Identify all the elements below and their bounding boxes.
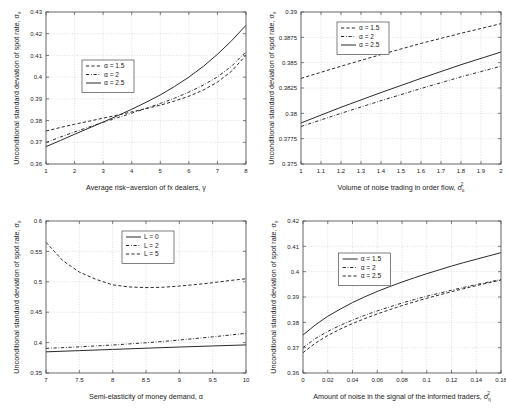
y-tick-label: 0.4 — [34, 340, 43, 346]
legend-label-1: α = 1.5 — [359, 24, 380, 31]
series-line-1 — [46, 55, 246, 131]
x-tick-label: 8 — [111, 377, 115, 383]
x-axis-label: Volume of noise trading in order flow, σ… — [338, 182, 465, 193]
y-tick-label: 0.3825 — [279, 85, 298, 91]
y-tick-label: 0.37 — [287, 345, 299, 351]
legend-label-2: α = 2 — [359, 33, 374, 40]
x-tick-label: 7 — [44, 377, 48, 383]
y-tick-label: 0.36 — [30, 161, 42, 167]
y-tick-label: 0.4 — [291, 269, 300, 275]
x-tick-label: 0.14 — [470, 377, 482, 383]
chart-panel-bottom-left: 77.588.599.5100.350.40.450.50.550.6Semi-… — [0, 209, 253, 418]
x-tick-label: 0.1 — [423, 377, 432, 383]
x-tick-label: 8 — [244, 168, 248, 174]
x-tick-label: 9.5 — [208, 377, 217, 383]
y-axis-label: Unconditional standard deviation of spot… — [267, 11, 277, 165]
legend-label-3: α = 2.5 — [359, 41, 380, 48]
legend-label-1: α = 1.5 — [104, 62, 125, 69]
x-tick-label: 8.5 — [142, 377, 151, 383]
y-tick-label: 0.375 — [282, 161, 298, 167]
y-tick-label: 0.41 — [30, 53, 42, 59]
y-tick-label: 0.35 — [30, 370, 42, 376]
x-tick-label: 0.16 — [495, 377, 506, 383]
x-tick-label: 1 — [44, 168, 48, 174]
x-tick-label: 9 — [178, 377, 182, 383]
legend-label-1: α = 1.5 — [361, 255, 382, 262]
x-tick-label: 1.4 — [377, 168, 386, 174]
x-tick-label: 10 — [243, 377, 250, 383]
x-tick-label: 0.04 — [347, 377, 359, 383]
y-tick-label: 0.38 — [285, 111, 297, 117]
y-tick-label: 0.37 — [30, 139, 42, 145]
y-tick-label: 0.39 — [287, 294, 299, 300]
x-axis-label: Semi-elasticity of money demand, α — [89, 392, 203, 401]
legend-label-2: α = 2 — [361, 264, 376, 271]
legend-label-1: L = 0 — [144, 233, 159, 240]
x-tick-label: 1.2 — [337, 168, 346, 174]
y-tick-label: 0.42 — [287, 218, 299, 224]
y-axis-label: Unconditional standard deviation of spot… — [12, 11, 22, 165]
y-tick-label: 0.43 — [30, 9, 42, 15]
x-tick-label: 0.12 — [446, 377, 458, 383]
y-tick-label: 0.55 — [30, 249, 42, 255]
x-tick-label: 7.5 — [75, 377, 84, 383]
chart-panel-top-right: 11.11.21.31.41.51.61.71.81.920.3750.3775… — [253, 0, 506, 209]
legend: α = 1.5α = 2α = 2.5 — [82, 60, 134, 93]
y-tick-label: 0.4 — [34, 74, 43, 80]
legend-label-3: α = 2.5 — [361, 272, 382, 279]
y-tick-label: 0.38 — [287, 320, 299, 326]
x-tick-label: 0.06 — [371, 377, 383, 383]
x-tick-label: 1.9 — [477, 168, 486, 174]
x-tick-label: 2 — [73, 168, 77, 174]
x-axis-label: Amount of noise in the signal of the inf… — [313, 391, 491, 402]
x-tick-label: 1.3 — [357, 168, 366, 174]
x-tick-label: 0 — [301, 377, 305, 383]
legend: α = 1.5α = 2α = 2.5 — [339, 253, 391, 286]
y-axis-label: Unconditional standard deviation of spot… — [12, 220, 22, 374]
y-tick-label: 0.38 — [30, 118, 42, 124]
legend: L = 0L = 2L = 5 — [122, 231, 174, 264]
y-tick-label: 0.3775 — [279, 136, 298, 142]
y-axis-label: Unconditional standard deviation of spot… — [269, 220, 279, 374]
x-axis-label: Average risk−aversion of fx dealers, γ — [86, 183, 206, 192]
y-tick-label: 0.45 — [30, 309, 42, 315]
x-tick-label: 1.1 — [317, 168, 326, 174]
series-line-3 — [46, 25, 246, 146]
y-tick-label: 0.385 — [282, 60, 298, 66]
x-tick-label: 7 — [216, 168, 220, 174]
y-tick-label: 0.42 — [30, 31, 42, 37]
legend: α = 1.5α = 2α = 2.5 — [337, 22, 389, 55]
legend-label-3: L = 5 — [144, 250, 159, 257]
x-tick-label: 5 — [159, 168, 163, 174]
y-tick-label: 0.36 — [287, 370, 299, 376]
legend-label-2: α = 2 — [104, 71, 119, 78]
x-tick-label: 6 — [187, 168, 191, 174]
x-tick-label: 0.08 — [396, 377, 408, 383]
x-tick-label: 0.02 — [322, 377, 334, 383]
legend-label-3: α = 2.5 — [104, 79, 125, 86]
x-tick-label: 3 — [101, 168, 105, 174]
y-tick-label: 0.39 — [285, 9, 297, 15]
legend-label-2: L = 2 — [144, 242, 159, 249]
figure-panel-grid: 123456780.360.370.380.390.40.410.420.43A… — [0, 0, 506, 418]
x-tick-label: 1 — [299, 168, 303, 174]
x-tick-label: 4 — [130, 168, 134, 174]
chart-panel-top-left: 123456780.360.370.380.390.40.410.420.43A… — [0, 0, 253, 209]
x-tick-label: 1.6 — [417, 168, 426, 174]
chart-panel-bottom-right: 00.020.040.060.080.10.120.140.160.360.37… — [253, 209, 506, 418]
series-line-3 — [303, 280, 501, 353]
y-tick-label: 0.3875 — [279, 35, 298, 41]
x-tick-label: 1.5 — [397, 168, 406, 174]
x-tick-label: 1.8 — [457, 168, 466, 174]
y-tick-label: 0.6 — [34, 218, 43, 224]
y-tick-label: 0.39 — [30, 96, 42, 102]
x-tick-label: 2 — [499, 168, 503, 174]
y-tick-label: 0.41 — [287, 244, 299, 250]
y-tick-label: 0.5 — [34, 279, 43, 285]
axes-box — [46, 12, 246, 164]
series-line-2 — [46, 52, 246, 143]
x-tick-label: 1.7 — [437, 168, 446, 174]
